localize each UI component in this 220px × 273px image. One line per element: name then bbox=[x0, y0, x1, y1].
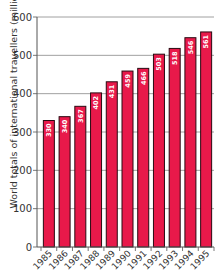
bar-1990 bbox=[122, 71, 133, 247]
bar-value-label: 431 bbox=[108, 84, 116, 98]
y-tick-label: 0 bbox=[26, 242, 32, 253]
bar-chart: 330340367402431459466503518546561 010020… bbox=[0, 0, 220, 273]
bar-value-label: 503 bbox=[155, 57, 163, 71]
bar-value-label: 459 bbox=[124, 74, 132, 88]
bar-1988 bbox=[91, 93, 102, 247]
x-tick-labels: 1985198619871988198919901991199219931994… bbox=[31, 248, 212, 271]
bar-1993 bbox=[169, 48, 180, 247]
bar-1994 bbox=[185, 38, 196, 247]
bar-1986 bbox=[59, 117, 70, 247]
bar-value-label: 561 bbox=[202, 34, 210, 48]
bar-value-label: 466 bbox=[140, 71, 148, 85]
bar-1985 bbox=[43, 121, 54, 248]
bar-value-label: 546 bbox=[187, 40, 195, 54]
bar-1992 bbox=[153, 54, 164, 247]
bars: 330340367402431459466503518546561 bbox=[43, 32, 211, 247]
y-axis-label: World totals of international travellers… bbox=[8, 59, 19, 209]
bar-1991 bbox=[138, 68, 149, 247]
bar-value-label: 340 bbox=[61, 119, 69, 133]
bar-1987 bbox=[75, 106, 86, 247]
bar-value-label: 518 bbox=[171, 51, 179, 65]
bar-value-label: 330 bbox=[45, 123, 53, 137]
bar-value-label: 402 bbox=[92, 96, 100, 110]
bar-value-label: 367 bbox=[77, 109, 85, 123]
bar-1989 bbox=[106, 82, 117, 247]
bar-1995 bbox=[201, 32, 212, 247]
